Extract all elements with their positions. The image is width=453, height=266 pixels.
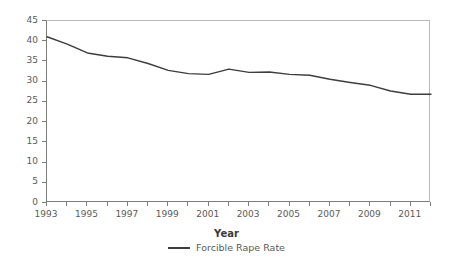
x-tick-mark [268, 202, 269, 206]
x-tick-mark [86, 202, 87, 206]
y-tick-label: 0 [4, 198, 38, 207]
y-tick-label: 20 [4, 117, 38, 126]
x-tick-mark [369, 202, 370, 206]
chart-container: 051015202530354045 199319951997199920012… [0, 0, 453, 266]
x-tick-label: 2003 [228, 210, 268, 219]
legend-item-label: Forcible Rape Rate [196, 243, 285, 253]
x-tick-mark [46, 202, 47, 206]
y-tick-label: 15 [4, 137, 38, 146]
y-tick-label: 45 [4, 16, 38, 25]
y-tick-label: 40 [4, 36, 38, 45]
y-tick-label: 30 [4, 76, 38, 85]
x-tick-mark [329, 202, 330, 206]
x-tick-label: 1993 [26, 210, 66, 219]
y-tick-label: 10 [4, 157, 38, 166]
chart-legend: Forcible Rape Rate [0, 243, 453, 253]
legend-line-swatch-icon [168, 247, 190, 249]
x-tick-mark [208, 202, 209, 206]
x-axis-title: Year [0, 228, 453, 239]
x-tick-mark [107, 202, 108, 206]
x-tick-mark [228, 202, 229, 206]
x-tick-mark [390, 202, 391, 206]
x-tick-label: 1999 [147, 210, 187, 219]
data-line [47, 37, 431, 94]
x-tick-mark [430, 202, 431, 206]
x-tick-mark [349, 202, 350, 206]
x-tick-mark [66, 202, 67, 206]
x-tick-mark [127, 202, 128, 206]
x-tick-label: 1995 [66, 210, 106, 219]
x-tick-label: 2001 [188, 210, 228, 219]
x-tick-mark [309, 202, 310, 206]
plot-area [46, 20, 430, 202]
y-tick-label: 5 [4, 177, 38, 186]
x-tick-label: 2009 [349, 210, 389, 219]
x-tick-label: 2005 [269, 210, 309, 219]
y-tick-label: 35 [4, 56, 38, 65]
x-tick-label: 2007 [309, 210, 349, 219]
x-tick-mark [289, 202, 290, 206]
x-tick-mark [187, 202, 188, 206]
x-tick-mark [410, 202, 411, 206]
y-tick-label: 25 [4, 96, 38, 105]
x-tick-mark [167, 202, 168, 206]
legend-item-forcible-rape-rate: Forcible Rape Rate [168, 243, 285, 253]
x-tick-label: 2011 [390, 210, 430, 219]
x-tick-label: 1997 [107, 210, 147, 219]
x-tick-mark [248, 202, 249, 206]
series-line-forcible-rape-rate [47, 21, 431, 203]
x-tick-mark [147, 202, 148, 206]
